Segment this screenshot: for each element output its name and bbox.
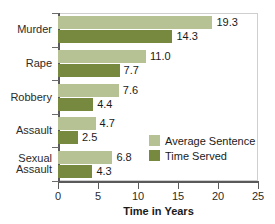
bar-rape-time-served bbox=[58, 64, 120, 77]
y-tick-4 bbox=[52, 147, 59, 148]
bar-rape-average-sentence bbox=[58, 50, 146, 63]
category-label-robbery: Robbery bbox=[0, 92, 52, 103]
bar-assault-time-served bbox=[58, 131, 78, 144]
bar-sexual-assault-average-sentence bbox=[58, 151, 112, 164]
y-tick-0 bbox=[52, 13, 59, 14]
legend-swatch-icon-average-sentence bbox=[149, 135, 160, 146]
legend-item-time-served: Time Served bbox=[149, 148, 255, 163]
legend-label-time-served: Time Served bbox=[165, 150, 227, 162]
x-tick-10 bbox=[138, 183, 139, 189]
bar-robbery-average-sentence bbox=[58, 84, 119, 97]
category-label-murder: Murder bbox=[0, 24, 52, 35]
legend-item-average-sentence: Average Sentence bbox=[149, 133, 255, 148]
bar-robbery-time-served bbox=[58, 98, 93, 111]
x-tick-5 bbox=[98, 183, 99, 189]
y-tick-3 bbox=[52, 114, 59, 115]
bar-sexual-assault-time-served bbox=[58, 165, 92, 178]
bar-value-label: 11.0 bbox=[150, 50, 171, 63]
category-label-assault: Assault bbox=[0, 125, 52, 136]
x-axis-title: Time in Years bbox=[58, 205, 259, 217]
bar-assault-average-sentence bbox=[58, 117, 96, 130]
bar-chart: MurderRapeRobberyAssaultSexualAssault 19… bbox=[0, 0, 275, 224]
category-label-sexual-assault: SexualAssault bbox=[0, 153, 52, 175]
y-tick-5 bbox=[52, 181, 59, 182]
x-tick-label-10: 10 bbox=[132, 190, 144, 202]
category-label-line: Robbery bbox=[0, 92, 52, 103]
y-tick-1 bbox=[52, 47, 59, 48]
legend-label-average-sentence: Average Sentence bbox=[165, 135, 255, 147]
x-tick-label-15: 15 bbox=[172, 190, 184, 202]
bar-value-label: 6.8 bbox=[116, 151, 131, 164]
x-tick-label-25: 25 bbox=[252, 190, 264, 202]
category-label-line: Assault bbox=[0, 125, 52, 136]
x-tick-20 bbox=[218, 183, 219, 189]
legend: Average Sentence Time Served bbox=[149, 133, 255, 163]
category-label-line: Rape bbox=[0, 58, 52, 69]
x-tick-label-0: 0 bbox=[55, 190, 61, 202]
x-tick-25 bbox=[258, 183, 259, 189]
y-tick-2 bbox=[52, 80, 59, 81]
bar-value-label: 4.4 bbox=[97, 98, 112, 111]
bar-value-label: 7.7 bbox=[124, 64, 139, 77]
bar-value-label: 2.5 bbox=[82, 131, 97, 144]
x-tick-label-20: 20 bbox=[212, 190, 224, 202]
legend-swatch-icon-time-served bbox=[149, 150, 160, 161]
category-label-rape: Rape bbox=[0, 58, 52, 69]
bar-value-label: 14.3 bbox=[176, 30, 197, 43]
category-label-line: Murder bbox=[0, 24, 52, 35]
category-label-line: Assault bbox=[0, 164, 52, 175]
x-axis-line bbox=[58, 181, 259, 183]
bar-value-label: 7.6 bbox=[123, 84, 138, 97]
bar-value-label: 4.3 bbox=[96, 165, 111, 178]
bar-murder-average-sentence bbox=[58, 16, 212, 29]
bar-value-label: 19.3 bbox=[216, 16, 237, 29]
x-tick-0 bbox=[58, 183, 59, 189]
bar-murder-time-served bbox=[58, 30, 172, 43]
bar-value-label: 4.7 bbox=[100, 117, 115, 130]
x-tick-label-5: 5 bbox=[95, 190, 101, 202]
x-tick-15 bbox=[178, 183, 179, 189]
